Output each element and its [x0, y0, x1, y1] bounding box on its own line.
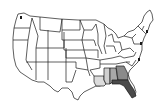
us-map-svg	[0, 0, 167, 110]
us-map	[0, 0, 167, 110]
state-mississippi	[104, 68, 110, 84]
state-florida	[112, 80, 136, 98]
